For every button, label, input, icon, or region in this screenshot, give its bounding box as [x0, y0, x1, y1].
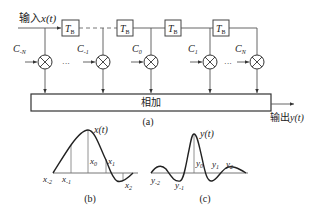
sample-label: y1 — [211, 159, 219, 170]
output-label: 输出y(t) — [270, 111, 305, 124]
coefficient-label: CN — [235, 43, 247, 55]
delay-element-4: TB — [213, 20, 229, 36]
coefficient-label: C1 — [188, 43, 198, 55]
input-label: 输入x(t) — [19, 11, 57, 25]
delay-element-3: TB — [165, 20, 181, 36]
panel-c-output-signal: y(t) y-2 y-1 y0 y1 y2 (c) — [150, 128, 248, 205]
sample-label: x-1 — [61, 174, 71, 185]
transversal-filter-diagram: 输入x(t) TB TB TB TB — [0, 0, 322, 216]
tap-0: C0 — [131, 28, 158, 93]
panel-b-input-signal: x(t) x-2 x-1 x0 x1 x2 (b) — [42, 124, 138, 205]
caption-a: (a) — [142, 116, 153, 128]
sample-label: y2 — [225, 159, 233, 170]
ellipsis: ··· — [224, 59, 232, 68]
sample-label: x-2 — [42, 174, 52, 185]
summer-block: 相加 — [31, 94, 271, 111]
svg-text:相加: 相加 — [141, 96, 161, 108]
tap-n: CN — [235, 28, 264, 93]
curve-label: x(t) — [93, 124, 109, 136]
tap-minus-n: C-N — [13, 28, 52, 93]
sample-label: x0 — [89, 156, 97, 167]
caption-b: (b) — [84, 193, 96, 205]
delay-element-2: TB — [117, 20, 133, 36]
delay-element-1: TB — [62, 20, 79, 36]
ellipsis: ··· — [62, 59, 70, 68]
coefficient-label: C-N — [13, 43, 27, 55]
curve-label: y(t) — [199, 128, 215, 140]
sample-label: x1 — [107, 156, 115, 167]
sample-label: x2 — [124, 180, 132, 191]
caption-c: (c) — [199, 193, 210, 205]
tap-1: C1 — [188, 28, 217, 93]
coefficient-label: C-1 — [77, 43, 89, 55]
sample-label: y-2 — [150, 175, 160, 186]
panel-a-tapped-delay-line: 输入x(t) TB TB TB TB — [13, 11, 305, 128]
tap-minus-1: C-1 — [77, 28, 110, 93]
coefficient-label: C0 — [132, 43, 142, 55]
